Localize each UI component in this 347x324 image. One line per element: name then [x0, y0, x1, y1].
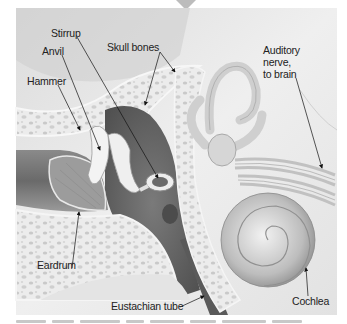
label-stirrup: Stirrup: [51, 27, 81, 39]
label-eustachian-tube: Eustachian tube: [111, 300, 183, 312]
label-skull-bones: Skull bones: [107, 41, 159, 53]
label-eardrum: Eardrum: [37, 259, 76, 271]
label-hammer: Hammer: [27, 75, 66, 87]
label-anvil: Anvil: [42, 45, 64, 57]
label-auditory-nerve: Auditory nerve, to brain: [263, 44, 300, 80]
cropped-caption: [16, 318, 316, 324]
label-cochlea: Cochlea: [292, 295, 329, 307]
ear-anatomy-figure: Stirrup Anvil Skull bones Hammer Auditor…: [0, 0, 347, 324]
